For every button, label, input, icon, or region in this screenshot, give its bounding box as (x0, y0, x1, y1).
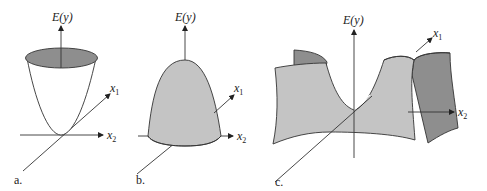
panel-c: E(y) x1 x2 c. (273, 13, 467, 189)
panel-label-a: a. (14, 173, 22, 187)
x2-label: x2 (457, 105, 467, 121)
bowl-rim (26, 48, 98, 68)
x2-label: x2 (236, 129, 246, 145)
panel-b: E(y) x1 x2 b. (136, 10, 246, 187)
paraboloid-dome (148, 60, 221, 146)
paraboloid-bowl (27, 58, 96, 135)
x1-label: x1 (109, 81, 119, 97)
response-surface-figure: E(y) x1 x2 a. E(y) x1 x2 b. (0, 0, 487, 191)
x1-axis-lower (137, 143, 175, 174)
ey-label: E(y) (51, 10, 73, 24)
x1-axis-upper (214, 95, 234, 113)
ey-label: E(y) (342, 13, 364, 27)
ey-label: E(y) (174, 10, 196, 24)
saddle-back-right-flap (412, 53, 458, 143)
panel-a: E(y) x1 x2 a. (14, 10, 119, 187)
x1-axis-upper (416, 38, 432, 52)
saddle-surface (273, 56, 415, 144)
x1-label: x1 (233, 81, 243, 97)
x1-label: x1 (432, 26, 442, 42)
x2-label: x2 (106, 128, 116, 144)
panel-label-c: c. (275, 175, 283, 189)
panel-label-b: b. (136, 173, 145, 187)
